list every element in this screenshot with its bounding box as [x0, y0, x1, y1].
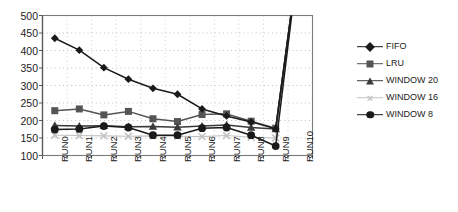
- legend-item-lru[interactable]: LRU: [357, 55, 458, 72]
- data-point-marker: [198, 124, 206, 132]
- data-point-marker: [125, 124, 133, 132]
- data-point-marker: [149, 131, 157, 139]
- legend-label: LRU: [386, 58, 404, 69]
- triangle-marker-icon: [366, 77, 374, 84]
- data-point-marker: [51, 34, 59, 42]
- x-axis-tick-label: RUN8: [255, 136, 266, 162]
- series-line: [55, 0, 300, 128]
- series-window-20: [51, 0, 301, 132]
- legend-item-window-8[interactable]: WINDOW 8: [357, 106, 458, 123]
- cross-marker-icon: ×: [367, 93, 373, 102]
- series-line: [55, 0, 300, 129]
- legend-swatch: [357, 58, 383, 70]
- line-chart: 500450400350300250200150100 RUN0RUN1RUN2…: [0, 0, 458, 212]
- legend-label: WINDOW 20: [386, 75, 438, 86]
- data-point-marker: [76, 105, 83, 112]
- x-axis-tick-label: RUN10: [304, 130, 315, 161]
- legend-swatch: ×: [357, 92, 383, 104]
- square-marker-icon: [367, 60, 374, 67]
- x-axis-tick-label: RUN6: [206, 136, 217, 162]
- data-point-marker: [125, 75, 133, 83]
- chart-legend: FIFOLRUWINDOW 20×WINDOW 16WINDOW 8: [357, 38, 458, 123]
- data-point-marker: [247, 131, 255, 139]
- x-axis-tick-label: RUN0: [59, 136, 70, 162]
- data-point-marker: [149, 84, 157, 92]
- data-point-marker: [174, 90, 182, 98]
- data-point-marker: [223, 124, 231, 132]
- x-axis-tick-label: RUN2: [108, 136, 119, 162]
- legend-label: WINDOW 16: [386, 92, 438, 103]
- circle-marker-icon: [366, 111, 374, 119]
- legend-swatch: [357, 75, 383, 87]
- x-axis-tick-label: RUN7: [231, 136, 242, 162]
- data-point-marker: [51, 126, 59, 134]
- x-axis-tick-label: RUN4: [157, 136, 168, 162]
- legend-label: WINDOW 8: [386, 109, 433, 120]
- series-line: [55, 0, 300, 129]
- x-axis-tick-label: RUN5: [182, 136, 193, 162]
- diamond-marker-icon: [365, 42, 375, 52]
- data-point-marker: [100, 122, 108, 130]
- legend-item-window-16[interactable]: ×WINDOW 16: [357, 89, 458, 106]
- x-axis-tick-label: RUN9: [280, 136, 291, 162]
- series-fifo: [51, 0, 300, 133]
- legend-swatch: [357, 109, 383, 121]
- series-lru: [51, 0, 300, 132]
- data-point-marker: [100, 111, 107, 118]
- x-axis-tick-label: RUN1: [83, 136, 94, 162]
- data-point-marker: [51, 107, 58, 114]
- legend-item-window-20[interactable]: WINDOW 20: [357, 72, 458, 89]
- data-point-marker: [272, 142, 280, 150]
- legend-item-fifo[interactable]: FIFO: [357, 38, 458, 55]
- data-point-marker: [149, 115, 156, 122]
- x-axis-tick-label: RUN3: [132, 136, 143, 162]
- series-group: [51, 0, 301, 150]
- data-point-marker: [75, 125, 83, 133]
- legend-label: FIFO: [386, 41, 407, 52]
- data-point-marker: [125, 108, 132, 115]
- data-point-marker: [174, 131, 182, 139]
- legend-swatch: [357, 41, 383, 53]
